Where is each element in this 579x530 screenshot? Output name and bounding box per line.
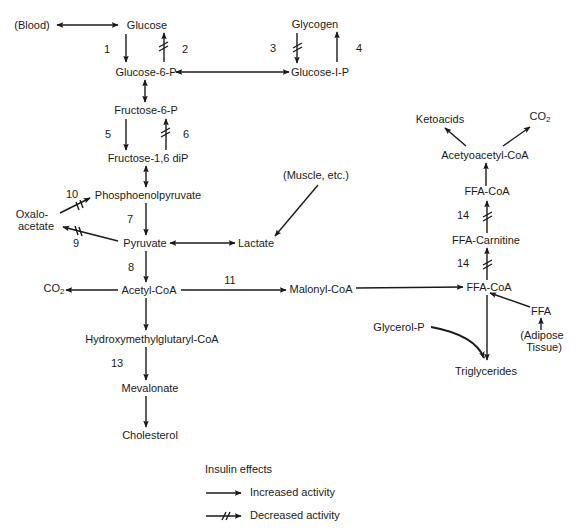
- edge-glycerolp-triglycerides: [431, 327, 484, 358]
- node-mevalonate: Mevalonate: [122, 382, 179, 395]
- node-fructose-16-dip: Fructose-1,6 diP: [108, 152, 189, 165]
- node-ffa: FFA: [531, 305, 551, 318]
- step-number-11: 11: [224, 274, 235, 287]
- step-number-14-lower: 14: [457, 257, 469, 270]
- node-co2-left: CO2: [44, 282, 65, 298]
- step-number-3: 3: [270, 42, 276, 55]
- node-glycogen: Glycogen: [292, 18, 338, 31]
- node-glycerol-p: Glycerol-P: [373, 321, 424, 334]
- node-oxaloacetate-line2: acetate: [18, 220, 54, 233]
- step-number-6: 6: [183, 128, 189, 141]
- node-acetoacetyl-coa: Acetyoacetyl-CoA: [441, 149, 528, 162]
- step-number-2: 2: [182, 43, 188, 56]
- legend-decreased: Decreased activity: [250, 509, 340, 521]
- node-glucose: Glucose: [127, 19, 167, 32]
- node-glucose-6-p: Glucose-6-P: [115, 66, 176, 79]
- legend-increased: Increased activity: [250, 486, 335, 498]
- edge-acetoacetyl-ketoacids: [445, 128, 466, 146]
- node-muscle: (Muscle, etc.): [283, 169, 349, 182]
- node-ketoacids: Ketoacids: [416, 113, 464, 126]
- legend-decreased-label: Decreased activity: [250, 509, 340, 521]
- node-pyruvate: Pyruvate: [123, 237, 166, 250]
- node-ffa-coa-top: FFA-CoA: [464, 185, 509, 198]
- step-number-13: 13: [111, 357, 123, 370]
- edge-muscle-lactate: [275, 185, 318, 236]
- legend-title: Insulin effects: [205, 463, 272, 475]
- node-phosphoenolpyruvate: Phosphoenolpyruvate: [95, 189, 201, 202]
- node-lactate: Lactate: [238, 237, 274, 250]
- step-number-7: 7: [127, 213, 133, 226]
- edge-malonyl-ffacoa: [356, 287, 463, 288]
- node-acetyl-coa: Acetyl-CoA: [121, 284, 176, 297]
- node-ffa-coa-bottom: FFA-CoA: [466, 281, 511, 294]
- node-cholesterol: Cholesterol: [122, 429, 178, 442]
- edge-step-9: [63, 227, 118, 241]
- step-number-14-upper: 14: [457, 209, 469, 222]
- node-ffa-carnitine: FFA-Carnitine: [452, 234, 520, 247]
- pathway-arrows: [0, 0, 579, 530]
- step-number-9: 9: [73, 237, 79, 250]
- step-number-1: 1: [104, 43, 110, 56]
- node-malonyl-coa: Malonyl-CoA: [290, 283, 353, 296]
- node-co2-right: CO2: [530, 110, 551, 126]
- edge-acetoacetyl-co2: [503, 127, 530, 146]
- step-number-4: 4: [356, 42, 362, 55]
- legend-increased-label: Increased activity: [250, 486, 335, 498]
- step-number-5: 5: [105, 128, 111, 141]
- step-number-10: 10: [66, 188, 78, 201]
- step-number-8: 8: [128, 261, 134, 274]
- node-blood: (Blood): [14, 19, 49, 32]
- node-hmg-coa: Hydroxymethylglutaryl-CoA: [85, 333, 218, 346]
- node-glucose-1-p: Glucose-I-P: [291, 66, 349, 79]
- node-fructose-6-p: Fructose-6-P: [114, 104, 178, 117]
- node-adipose-line2: Tissue): [526, 341, 562, 354]
- node-triglycerides: Triglycerides: [455, 365, 517, 378]
- edge-ffa-ffacoa: [490, 293, 530, 307]
